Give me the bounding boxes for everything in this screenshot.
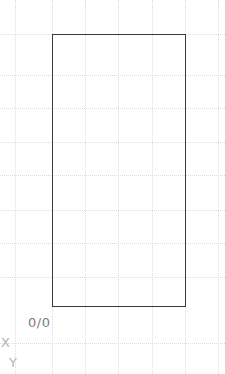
grid-line-vertical	[15, 0, 16, 374]
grid-line-horizontal	[0, 343, 225, 344]
axis-label-x: X	[1, 336, 10, 349]
grid-line-vertical	[218, 0, 219, 374]
drawing-canvas[interactable]: 0/0 X Y	[0, 0, 225, 374]
axis-label-y: Y	[9, 356, 17, 369]
origin-coordinate-label: 0/0	[28, 316, 50, 329]
drawing-rectangle[interactable]	[52, 34, 186, 307]
